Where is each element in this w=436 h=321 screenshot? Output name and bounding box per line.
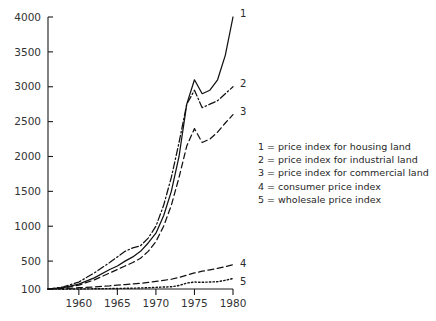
series-end-label-4: 4 [240,258,246,269]
series-line-5 [48,279,233,290]
series-end-label-2: 2 [240,78,246,89]
legend-item: 3 = price index for commercial land [258,166,434,179]
series-end-label-5: 5 [240,276,246,287]
y-tick-label: 500 [21,255,41,267]
x-tick-label: 1965 [104,297,131,309]
y-tick-label: 4000 [14,11,41,23]
series-end-labels: 12345 [240,8,246,288]
y-axis-ticks: 1005001000150020002500300035004000 [14,11,53,295]
series-end-label-3: 3 [240,106,246,117]
x-tick-label: 1975 [181,297,208,309]
x-tick-label: 1960 [65,297,92,309]
y-tick-label: 100 [21,283,41,295]
y-tick-label: 1000 [14,220,41,232]
y-tick-label: 3500 [14,46,41,58]
y-tick-label: 2500 [14,115,41,127]
chart-legend: 1 = price index for housing land 2 = pri… [258,140,434,206]
legend-item: 2 = price index for industrial land [258,153,434,166]
y-tick-label: 1500 [14,185,41,197]
series-line-3 [48,115,233,289]
series-line-1 [48,17,233,289]
legend-item: 4 = consumer price index [258,180,434,193]
y-tick-label: 2000 [14,150,41,162]
legend-item: 5 = wholesale price index [258,193,434,206]
axes-group [48,17,233,289]
data-series-group [48,17,233,289]
y-tick-label: 3000 [14,80,41,92]
x-tick-label: 1970 [143,297,170,309]
series-end-label-1: 1 [240,8,246,19]
price-index-line-chart: 1005001000150020002500300035004000 19601… [0,0,436,321]
x-axis-ticks: 19601965197019751980 [65,289,246,309]
legend-item: 1 = price index for housing land [258,140,434,153]
x-tick-label: 1980 [220,297,247,309]
